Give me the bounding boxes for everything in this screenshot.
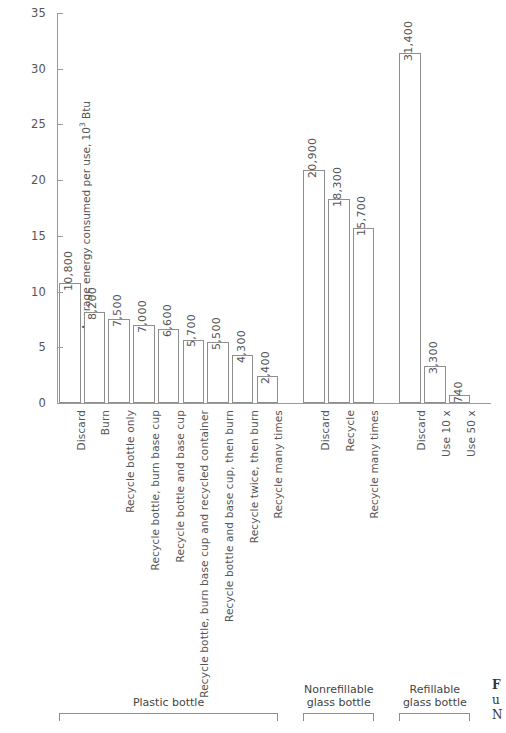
bar-value-label: 8,200 xyxy=(86,287,99,320)
group-label-line: glass bottle xyxy=(399,696,470,709)
bar xyxy=(207,342,229,403)
x-axis-line xyxy=(57,403,491,404)
x-axis-tick-label: Discard xyxy=(415,410,427,451)
bar-value-label: 10,800 xyxy=(62,250,75,290)
bars-layer: 10,8008,2007,5007,0006,6005,7005,5004,30… xyxy=(57,13,491,403)
x-axis-tick-label: Recycle bottle and base cup, then burn xyxy=(223,410,235,622)
x-axis-tick-label: Recycle bottle, burn base cup xyxy=(149,410,161,570)
group-label: Nonrefillableglass bottle xyxy=(303,683,374,709)
bar-value-label: 4,300 xyxy=(235,330,248,363)
x-axis-tick-label: Recycle many times xyxy=(272,410,284,519)
x-axis-tick-label: Recycle bottle only xyxy=(124,410,136,513)
y-axis-tick-label: 20 xyxy=(0,173,46,187)
bar-value-label: 15,700 xyxy=(355,196,368,236)
x-axis-tick-label: Discard xyxy=(319,410,331,451)
bar xyxy=(84,312,106,403)
x-axis-tick-label: Use 10 x xyxy=(440,410,452,457)
bar xyxy=(328,199,350,403)
group-label-line: Plastic bottle xyxy=(59,696,278,709)
energy-consumption-bar-chart: Average energy consumed per use, 103 Btu… xyxy=(0,0,506,733)
y-axis-tick-label: 5 xyxy=(0,340,46,354)
y-axis-tick-label: 0 xyxy=(0,396,46,410)
group-bracket xyxy=(59,713,278,721)
group-label: Refillableglass bottle xyxy=(399,683,470,709)
y-axis-tick-label: 10 xyxy=(0,285,46,299)
bar xyxy=(108,319,130,403)
caption-line-3: N xyxy=(492,708,506,723)
y-axis-tick xyxy=(57,403,63,404)
x-axis-tick-label: Recycle xyxy=(344,410,356,451)
group-label-line: glass bottle xyxy=(303,696,374,709)
x-axis-tick-label: Burn xyxy=(99,410,111,435)
y-axis-tick-label: 15 xyxy=(0,229,46,243)
y-axis-tick xyxy=(57,124,63,125)
bar-value-label: 2,400 xyxy=(259,351,272,384)
y-axis-tick xyxy=(57,347,63,348)
plot-area: Average energy consumed per use, 103 Btu… xyxy=(57,13,491,403)
bar-value-label: 5,700 xyxy=(185,314,198,347)
x-axis-tick-label: Recycle bottle, burn base cup and recycl… xyxy=(198,410,210,698)
bar-value-label: 740 xyxy=(452,381,465,403)
y-axis-tick xyxy=(57,180,63,181)
bar xyxy=(59,283,81,403)
x-axis-tick-label: Discard xyxy=(75,410,87,451)
group-bracket xyxy=(303,713,374,721)
bar xyxy=(353,228,375,403)
group-label-line: Nonrefillable xyxy=(303,683,374,696)
y-axis-tick xyxy=(57,69,63,70)
y-axis-tick xyxy=(57,13,63,14)
x-axis-tick-label: Recycle many times xyxy=(368,410,380,519)
bar xyxy=(399,53,421,403)
bar xyxy=(158,329,180,403)
y-axis-tick xyxy=(57,236,63,237)
figure-caption-truncated: F u N xyxy=(492,678,506,723)
y-axis-line xyxy=(57,13,58,403)
y-axis-tick-label: 25 xyxy=(0,117,46,131)
caption-line-2: u xyxy=(492,693,506,708)
bar-value-label: 3,300 xyxy=(427,341,440,374)
group-label: Plastic bottle xyxy=(59,696,278,709)
y-axis-tick xyxy=(57,292,63,293)
x-axis-tick-label: Use 50 x xyxy=(465,410,477,457)
y-axis-tick-label: 35 xyxy=(0,6,46,20)
x-axis-tick-label: Recycle twice, then burn xyxy=(248,410,260,543)
group-label-line: Refillable xyxy=(399,683,470,696)
bar-value-label: 18,300 xyxy=(331,167,344,207)
caption-line-1: F xyxy=(492,678,506,693)
bar xyxy=(303,170,325,403)
bar-value-label: 7,000 xyxy=(136,300,149,333)
bar xyxy=(183,340,205,404)
bar-value-label: 31,400 xyxy=(402,21,415,61)
x-axis-tick-label: Recycle bottle and base cup xyxy=(174,410,186,562)
bar-value-label: 7,500 xyxy=(111,294,124,327)
group-bracket xyxy=(399,713,470,721)
bar-value-label: 5,500 xyxy=(210,317,223,350)
bar-value-label: 20,900 xyxy=(306,138,319,178)
bar xyxy=(133,325,155,403)
bar-value-label: 6,600 xyxy=(161,304,174,337)
y-axis-tick-label: 30 xyxy=(0,62,46,76)
